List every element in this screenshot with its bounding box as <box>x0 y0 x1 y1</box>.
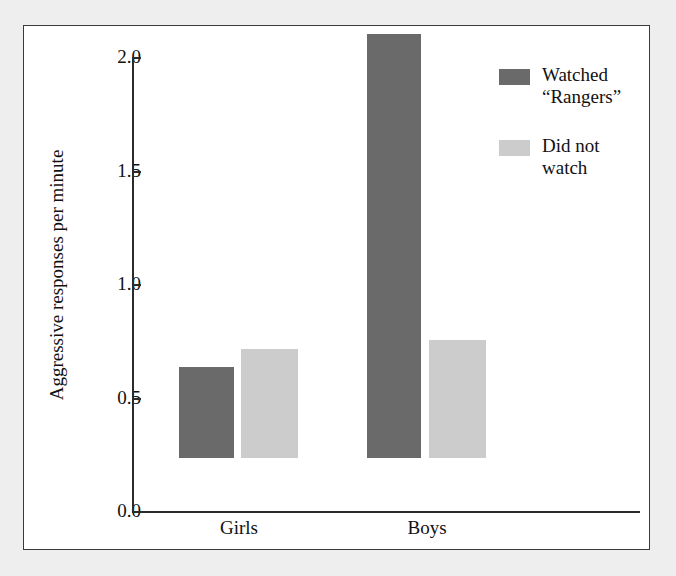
figure-root: Aggressive responses per minute 2.0 1.5 … <box>0 0 676 576</box>
legend-label-did-not-watch: Did not watch <box>542 135 600 180</box>
legend-item-did-not-watch: Did not watch <box>499 135 644 180</box>
x-axis-line <box>132 511 640 513</box>
legend-swatch-watched <box>499 69 530 85</box>
bar-girls-not-watched <box>241 349 298 458</box>
y-axis-line <box>132 57 134 512</box>
legend-swatch-did-not-watch <box>499 140 530 156</box>
x-tick-label-boys: Boys <box>357 518 497 537</box>
y-axis-title: Aggressive responses per minute <box>46 60 68 490</box>
plot-area: Aggressive responses per minute 2.0 1.5 … <box>24 26 649 549</box>
bar-boys-not-watched <box>429 340 486 458</box>
legend-item-watched: Watched “Rangers” <box>499 64 644 109</box>
figure-frame: Aggressive responses per minute 2.0 1.5 … <box>23 25 650 550</box>
chart-legend: Watched “Rangers” Did not watch <box>499 64 644 206</box>
x-tick-label-girls: Girls <box>169 518 309 537</box>
bar-boys-watched <box>367 34 421 458</box>
legend-label-watched: Watched “Rangers” <box>542 64 621 109</box>
bar-girls-watched <box>179 367 234 458</box>
